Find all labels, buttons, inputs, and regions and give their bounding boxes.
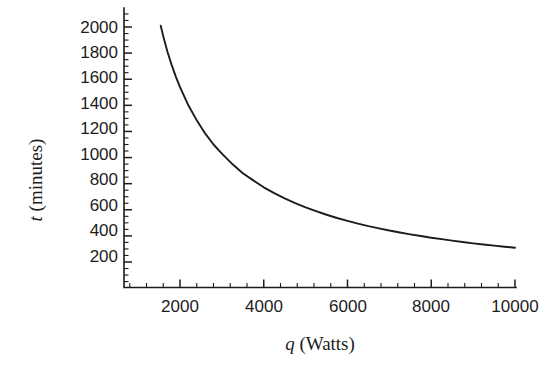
y-tick-label: 1000 bbox=[80, 145, 118, 164]
y-tick-label: 1600 bbox=[80, 68, 118, 87]
y-tick-label: 2000 bbox=[80, 18, 118, 37]
y-tick-label: 1200 bbox=[80, 119, 118, 138]
axis-spines bbox=[124, 8, 516, 288]
x-tick-label: 2000 bbox=[161, 297, 199, 316]
chart-figure: 2000 1800 1600 1400 1200 1000 800 600 40… bbox=[0, 0, 560, 370]
x-axis-title-variable: q bbox=[285, 333, 295, 354]
x-axis-title: q (Watts) bbox=[285, 333, 355, 355]
x-tick-label: 6000 bbox=[329, 297, 367, 316]
x-tick-label: 8000 bbox=[412, 297, 450, 316]
y-axis-ticks bbox=[124, 14, 132, 282]
y-axis-title-unit: (minutes) bbox=[25, 139, 47, 212]
x-tick-label: 10000 bbox=[491, 297, 538, 316]
svg-text:q (Watts): q (Watts) bbox=[285, 333, 355, 355]
x-tick-label: 4000 bbox=[245, 297, 283, 316]
y-tick-label: 400 bbox=[90, 221, 118, 240]
data-curve-line bbox=[161, 26, 515, 248]
y-tick-label: 1800 bbox=[80, 43, 118, 62]
y-tick-label: 200 bbox=[90, 247, 118, 266]
y-tick-label: 800 bbox=[90, 170, 118, 189]
x-axis-title-unit: (Watts) bbox=[299, 333, 354, 355]
y-axis-title: t (minutes) bbox=[25, 139, 47, 222]
y-tick-label: 1400 bbox=[80, 94, 118, 113]
y-axis-tick-labels: 2000 1800 1600 1400 1200 1000 800 600 40… bbox=[80, 18, 118, 266]
svg-text:t (minutes): t (minutes) bbox=[25, 139, 47, 222]
chart-canvas: 2000 1800 1600 1400 1200 1000 800 600 40… bbox=[0, 0, 560, 370]
y-tick-label: 600 bbox=[90, 196, 118, 215]
x-axis-tick-labels: 2000 4000 6000 8000 10000 bbox=[161, 297, 539, 316]
x-axis-ticks bbox=[130, 280, 515, 288]
